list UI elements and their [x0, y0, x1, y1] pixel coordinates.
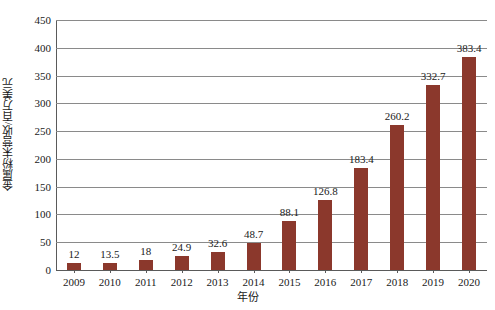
- x-tick-label: 2017: [350, 276, 372, 288]
- bar[interactable]: [139, 260, 153, 270]
- bar-value-label: 126.8: [313, 185, 338, 197]
- bar[interactable]: [175, 256, 189, 270]
- bar[interactable]: [103, 263, 117, 271]
- y-tick-label: 150: [35, 181, 52, 193]
- bar-slot: 332.72019: [415, 20, 451, 270]
- y-tick-label: 0: [46, 264, 52, 276]
- gridline: [56, 270, 487, 271]
- y-tick-label: 350: [35, 70, 52, 82]
- bar-value-label: 32.6: [208, 237, 227, 249]
- y-tick-label: 450: [35, 14, 52, 26]
- bar-slot: 383.42020: [451, 20, 487, 270]
- bar[interactable]: [211, 252, 225, 270]
- bar-value-label: 332.7: [421, 70, 446, 82]
- plot-area: 050100150200250300350400450 12200913.520…: [56, 20, 487, 270]
- bar[interactable]: [247, 243, 261, 270]
- x-tick-mark: [433, 270, 434, 273]
- bar-slot: 48.72014: [236, 20, 272, 270]
- bars-layer: 12200913.5201018201124.9201232.6201348.7…: [56, 20, 487, 270]
- bar[interactable]: [390, 125, 404, 270]
- bar-slot: 13.52010: [92, 20, 128, 270]
- bar-slot: 32.62013: [200, 20, 236, 270]
- bar-value-label: 383.4: [457, 42, 482, 54]
- y-tick-label: 400: [35, 42, 52, 54]
- x-tick-mark: [74, 270, 75, 273]
- y-tick-label: 250: [35, 125, 52, 137]
- x-tick-label: 2012: [171, 276, 193, 288]
- x-tick-label: 2011: [135, 276, 157, 288]
- x-tick-mark: [218, 270, 219, 273]
- y-tick-label: 300: [35, 97, 52, 109]
- y-tick-label: 100: [35, 208, 52, 220]
- y-tick-label: 200: [35, 153, 52, 165]
- bar-value-label: 48.7: [244, 228, 263, 240]
- x-tick-label: 2018: [386, 276, 408, 288]
- y-tick-label: 50: [40, 236, 51, 248]
- x-tick-mark: [397, 270, 398, 273]
- x-axis-title-text: 年份: [237, 291, 259, 303]
- bar-value-label: 24.9: [172, 241, 191, 253]
- bar-slot: 182011: [128, 20, 164, 270]
- x-tick-label: 2010: [99, 276, 121, 288]
- x-tick-mark: [325, 270, 326, 273]
- x-tick-mark: [182, 270, 183, 273]
- bar-value-label: 13.5: [100, 248, 119, 260]
- bar[interactable]: [67, 263, 81, 270]
- x-tick-mark: [254, 270, 255, 273]
- y-axis-title: 金属粉末营收/百万美元: [0, 0, 16, 270]
- bar-slot: 88.12015: [272, 20, 308, 270]
- x-tick-label: 2020: [458, 276, 480, 288]
- y-axis-title-text: 金属粉末营收/百万美元: [0, 78, 16, 191]
- bar-value-label: 260.2: [385, 110, 410, 122]
- bar-value-label: 12: [68, 248, 79, 260]
- x-tick-mark: [110, 270, 111, 273]
- bar-chart: 金属粉末营收/百万美元 050100150200250300350400450 …: [0, 0, 495, 310]
- bar-slot: 122009: [56, 20, 92, 270]
- bar[interactable]: [282, 221, 296, 270]
- x-tick-label: 2013: [207, 276, 229, 288]
- x-tick-label: 2019: [422, 276, 444, 288]
- bar-slot: 260.22018: [379, 20, 415, 270]
- bar-value-label: 88.1: [280, 206, 299, 218]
- x-tick-mark: [469, 270, 470, 273]
- x-tick-label: 2009: [63, 276, 85, 288]
- bar-slot: 126.82016: [307, 20, 343, 270]
- x-tick-mark: [146, 270, 147, 273]
- x-tick-mark: [289, 270, 290, 273]
- bar-slot: 24.92012: [164, 20, 200, 270]
- x-tick-label: 2014: [243, 276, 265, 288]
- x-tick-label: 2015: [278, 276, 300, 288]
- bar[interactable]: [426, 85, 440, 270]
- bar-value-label: 183.4: [349, 153, 374, 165]
- bar[interactable]: [462, 57, 476, 270]
- bar-slot: 183.42017: [343, 20, 379, 270]
- bar-value-label: 18: [140, 245, 151, 257]
- x-axis-title: 年份: [0, 288, 495, 304]
- bar[interactable]: [354, 168, 368, 270]
- bar[interactable]: [318, 200, 332, 270]
- x-tick-label: 2016: [314, 276, 336, 288]
- x-tick-mark: [361, 270, 362, 273]
